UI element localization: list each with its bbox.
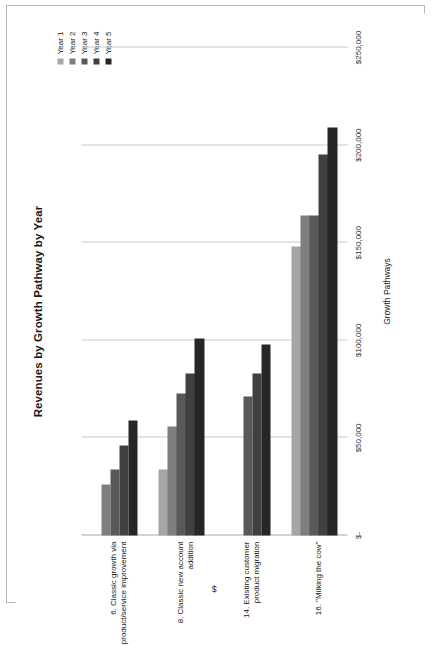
legend-item-1[interactable]: Year 1 — [55, 31, 64, 64]
bar — [291, 246, 300, 535]
legend-swatch-icon — [69, 58, 75, 64]
bar — [167, 426, 176, 535]
value-tick-label: $150,000 — [353, 226, 362, 259]
legend-label: Year 2 — [67, 31, 76, 54]
bar — [110, 469, 119, 535]
chart-page-frame: Revenues by Growth Pathway by Year Year … — [6, 5, 425, 603]
bar — [309, 215, 318, 535]
chart-title: Revenues by Growth Pathway by Year — [31, 13, 43, 609]
y-axis-title: $ — [212, 584, 217, 594]
bar — [243, 396, 252, 535]
legend-label: Year 1 — [55, 31, 64, 54]
value-tick-label: $200,000 — [353, 128, 362, 161]
bar — [101, 484, 110, 535]
category-label: 8. Classic new account addition — [175, 541, 195, 645]
rotated-chart-wrapper: Revenues by Growth Pathway by Year Year … — [7, 6, 433, 616]
bar — [252, 373, 261, 535]
bar — [185, 373, 194, 535]
bar — [176, 393, 185, 535]
gridline — [81, 46, 347, 47]
chart-stage: Revenues by Growth Pathway by Year Year … — [15, 13, 432, 609]
value-tick-label: $50,000 — [353, 423, 362, 452]
category-label: 16. "Milking the cow" — [313, 541, 323, 645]
bar — [158, 469, 167, 535]
bar — [327, 127, 336, 535]
category-label: 14. Existing customer product migration — [241, 541, 261, 645]
x-axis-title: Growth Pathways — [381, 47, 391, 535]
bar — [300, 215, 309, 535]
bar — [128, 420, 137, 535]
legend-item-2[interactable]: Year 2 — [67, 31, 76, 64]
bar — [261, 344, 270, 535]
category-label: 6. Classic growth via product/service im… — [108, 541, 128, 645]
legend-swatch-icon — [57, 58, 63, 64]
value-tick-label: $250,000 — [353, 30, 362, 63]
bar — [318, 154, 327, 535]
gridline — [81, 144, 347, 145]
value-tick-label: $100,000 — [353, 323, 362, 356]
bar — [194, 338, 203, 535]
value-tick-label: $- — [353, 531, 362, 538]
bar — [119, 445, 128, 535]
plot-area: $-$50,000$100,000$150,000$200,000$250,00… — [81, 47, 347, 535]
